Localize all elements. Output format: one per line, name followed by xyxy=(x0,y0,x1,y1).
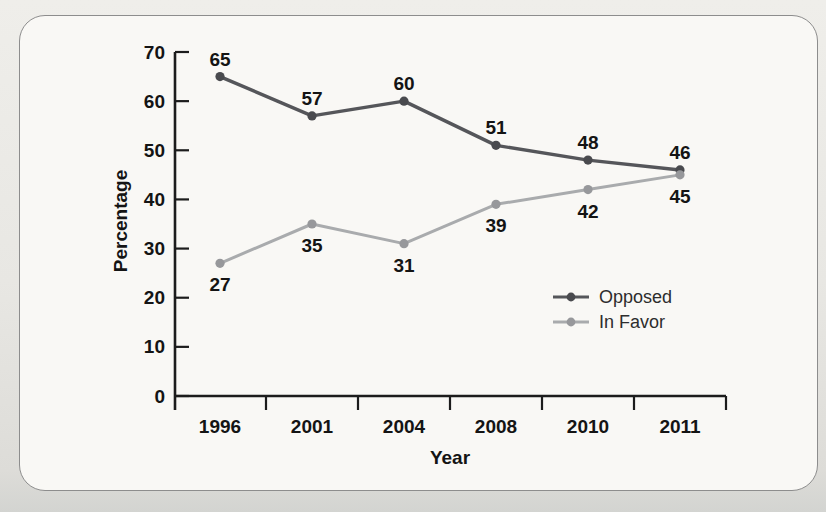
scanned-book-page: 0102030405060701996200120042008201020116… xyxy=(0,0,826,512)
data-value-label: 39 xyxy=(485,215,506,236)
series-line-in-favor xyxy=(220,175,680,263)
data-value-label: 35 xyxy=(301,235,323,256)
data-point-marker xyxy=(491,141,500,150)
data-value-label: 60 xyxy=(393,73,414,94)
data-point-marker xyxy=(583,156,592,165)
legend-label: In Favor xyxy=(599,312,665,332)
line-chart: 0102030405060701996200120042008201020116… xyxy=(0,0,826,512)
data-value-label: 65 xyxy=(209,49,231,70)
data-value-label: 48 xyxy=(577,132,598,153)
y-tick-label: 40 xyxy=(144,189,165,210)
data-point-marker xyxy=(215,259,224,268)
data-point-marker xyxy=(307,219,316,228)
x-tick-label: 2004 xyxy=(383,416,426,437)
x-tick-label: 2001 xyxy=(291,416,334,437)
data-value-label: 27 xyxy=(209,274,230,295)
data-value-label: 51 xyxy=(485,117,507,138)
legend-label: Opposed xyxy=(599,287,672,307)
data-point-marker xyxy=(307,111,316,120)
data-value-label: 31 xyxy=(393,255,415,276)
data-value-label: 42 xyxy=(577,201,598,222)
data-value-label: 46 xyxy=(669,142,690,163)
data-point-marker xyxy=(675,170,684,179)
legend-marker xyxy=(567,318,576,327)
y-tick-label: 60 xyxy=(144,91,165,112)
y-tick-label: 70 xyxy=(144,42,165,63)
data-point-marker xyxy=(583,185,592,194)
y-tick-label: 0 xyxy=(154,386,165,407)
y-tick-label: 20 xyxy=(144,287,165,308)
data-point-marker xyxy=(399,97,408,106)
x-tick-label: 2010 xyxy=(567,416,609,437)
y-tick-label: 10 xyxy=(144,336,165,357)
data-value-label: 57 xyxy=(301,88,322,109)
legend-marker xyxy=(567,293,576,302)
data-point-marker xyxy=(215,72,224,81)
y-tick-label: 30 xyxy=(144,238,165,259)
x-axis-title: Year xyxy=(430,447,471,468)
x-tick-label: 1996 xyxy=(199,416,241,437)
data-point-marker xyxy=(491,200,500,209)
data-value-label: 45 xyxy=(669,186,691,207)
series-line-opposed xyxy=(220,77,680,170)
data-point-marker xyxy=(399,239,408,248)
y-axis-title: Percentage xyxy=(110,170,131,272)
x-tick-label: 2011 xyxy=(659,416,701,437)
y-tick-label: 50 xyxy=(144,140,165,161)
x-tick-label: 2008 xyxy=(475,416,517,437)
